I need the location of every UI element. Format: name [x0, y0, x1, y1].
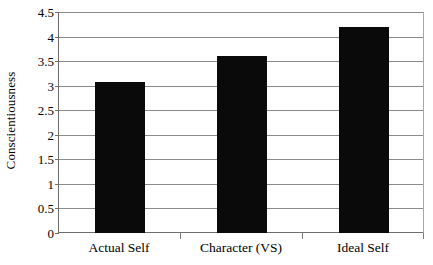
y-axis-tick-label: 2.5	[38, 104, 54, 117]
y-axis-tick-label: 3.5	[38, 55, 54, 68]
y-axis-title: Conscientiousness	[0, 0, 22, 240]
x-axis-tick-label: Actual Self	[88, 240, 149, 256]
y-axis-tick-label: 4	[48, 30, 55, 43]
bar	[95, 82, 145, 233]
x-axis-tickmark	[180, 233, 181, 239]
bar-chart: Conscientiousness 00.511.522.533.544.5 A…	[0, 0, 433, 265]
y-axis-tick-label: 0	[48, 227, 55, 240]
x-axis-tickmark	[302, 233, 303, 239]
y-axis-title-text: Conscientiousness	[5, 71, 18, 169]
x-axis-tick-labels: Actual SelfCharacter (VS)Ideal Self	[58, 240, 424, 262]
y-axis-tick-label: 2	[48, 128, 55, 141]
x-axis-tick-label: Character (VS)	[200, 240, 282, 256]
y-axis-tick-label: 3	[48, 79, 55, 92]
x-axis-tickmark	[423, 233, 424, 239]
y-axis-tick-label: 1	[48, 177, 55, 190]
bar	[217, 56, 267, 233]
bar	[339, 27, 389, 233]
x-axis-tick-label: Ideal Self	[337, 240, 389, 256]
plot-area	[58, 12, 424, 233]
x-axis-ticks	[58, 233, 424, 239]
y-axis-tick-label: 0.5	[38, 202, 54, 215]
y-axis-tick-labels: 00.511.522.533.544.5	[22, 12, 54, 233]
y-axis-tick-label: 1.5	[38, 153, 54, 166]
y-axis-tick-label: 4.5	[38, 6, 54, 19]
bars-group	[59, 12, 423, 233]
